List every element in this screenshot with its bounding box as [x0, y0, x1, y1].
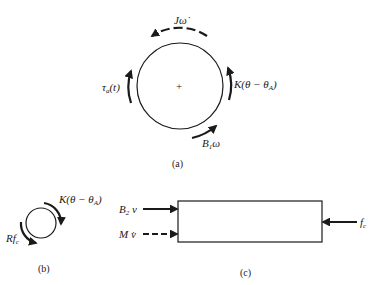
panel-b: K(θ − θA) Rfc (b)	[5, 193, 102, 275]
applied-torque-label: τa(t)	[102, 81, 120, 95]
inertia-torque-label: Jω̇	[174, 14, 191, 26]
caption-b: (b)	[38, 263, 50, 275]
force-torque-label: Rfc	[5, 232, 20, 246]
spring-torque-arrow-a	[228, 68, 231, 100]
panel-c: B2 v M v̇ fc (c)	[118, 201, 367, 279]
caption-c: (c)	[240, 267, 251, 279]
caption-a: (a)	[172, 158, 183, 170]
free-body-diagram: + Jω̇ K(θ − θA) τa(t) B1ω (a) K(θ − θA) …	[0, 0, 383, 285]
spring-torque-label-a: K(θ − θA)	[233, 78, 277, 92]
mass-block	[178, 201, 322, 242]
damping-force-label: B2 v	[119, 203, 137, 217]
panel-a: + Jω̇ K(θ − θA) τa(t) B1ω (a)	[102, 14, 277, 170]
inertia-force-label: M v̇	[118, 228, 136, 240]
spring-torque-label-b: K(θ − θA)	[58, 193, 102, 207]
center-mark: +	[176, 80, 182, 92]
force-torque-arrow	[21, 222, 36, 243]
pulley-disk	[26, 208, 56, 238]
contact-force-label: fc	[360, 216, 367, 230]
inertia-torque-arrow	[152, 28, 207, 36]
applied-torque-arrow	[128, 71, 131, 103]
damping-torque-label: B1ω	[202, 137, 220, 151]
